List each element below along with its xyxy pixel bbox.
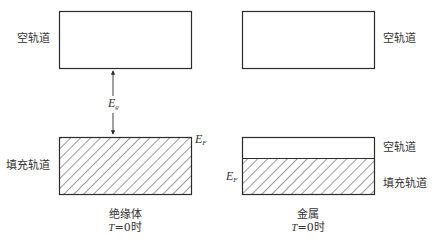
insulator-filled-band	[60, 138, 192, 195]
metal-empty-band	[243, 12, 375, 69]
metal-caption: 金属 T=0时	[273, 208, 343, 234]
band-diagram	[0, 0, 432, 243]
metal-fermi-symbol: EF	[226, 170, 238, 186]
insulator-fermi-symbol: EF	[195, 133, 207, 149]
metal-caption-title: 金属	[273, 208, 343, 221]
insulator-empty-band-label: 空轨道	[17, 33, 50, 45]
insulator-caption: 绝缘体 T=0时	[90, 208, 160, 234]
insulator-empty-band	[60, 12, 192, 69]
insulator-caption-temp: T=0时	[90, 221, 160, 234]
metal-partial-filled-label: 填充轨道	[383, 178, 427, 190]
metal-partial-band-filled	[243, 159, 375, 195]
metal-empty-band-label: 空轨道	[383, 33, 416, 45]
band-gap-symbol: Eg	[107, 97, 120, 113]
insulator-filled-band-label: 填充轨道	[6, 160, 50, 172]
metal-partial-empty-label: 空轨道	[383, 142, 416, 154]
metal-caption-temp: T=0时	[273, 221, 343, 234]
insulator-caption-title: 绝缘体	[90, 208, 160, 221]
